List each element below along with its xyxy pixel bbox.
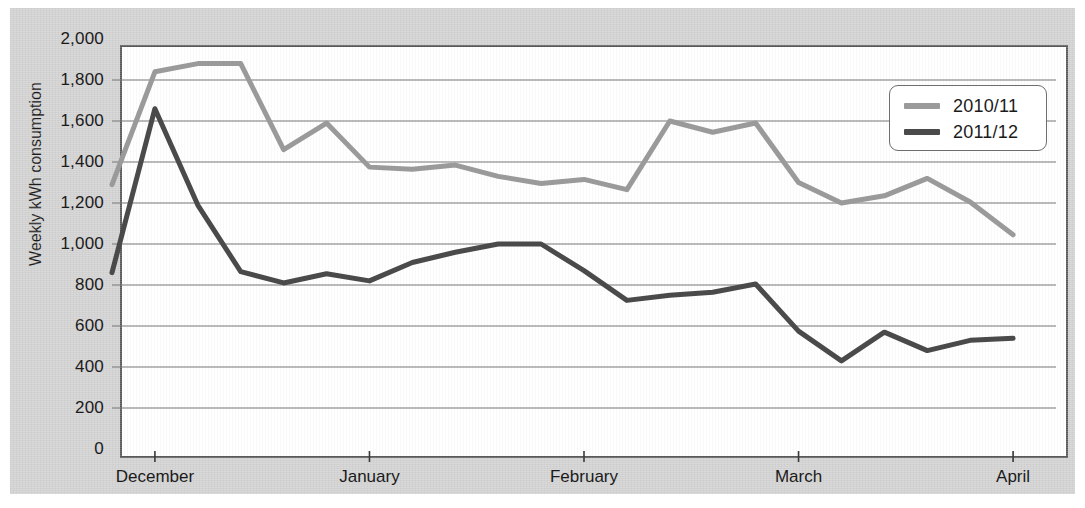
legend-label-2010-11: 2010/11 bbox=[953, 96, 1018, 117]
legend-item-2010-11: 2010/11 bbox=[890, 93, 1046, 119]
series-lines bbox=[112, 64, 1013, 361]
x-axis-ticks bbox=[155, 451, 1013, 462]
legend-label-2011-12: 2011/12 bbox=[953, 122, 1018, 143]
legend-item-2011-12: 2011/12 bbox=[890, 119, 1046, 145]
legend-swatch-2011-12 bbox=[904, 129, 940, 135]
chart-legend: 2010/11 2011/12 bbox=[889, 85, 1047, 151]
chart-graphics bbox=[0, 0, 1085, 508]
legend-swatch-2010-11 bbox=[904, 103, 940, 109]
chart-screenshot: Weekly kWh consumption 02004006008001,00… bbox=[0, 0, 1085, 508]
